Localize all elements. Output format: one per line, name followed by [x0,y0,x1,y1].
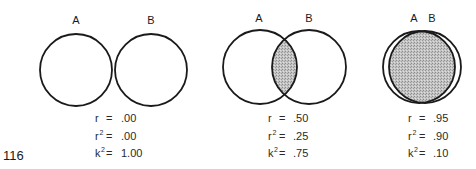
stat-r2-value: .90 [433,130,448,142]
stats-block: r = .50 r 2 = .25 k 2 = .75 [268,112,308,159]
stat-r2-eq: = [279,130,285,142]
circle-a-label: A [255,12,263,24]
stat-k2-eq: = [106,147,112,159]
stat-k2-eq: = [419,147,425,159]
stat-k2-eq: = [279,147,285,159]
stat-r2-value: .25 [293,130,308,142]
panel-moderate-correlation: A B r = .50 r 2 = .25 k 2 = .75 [223,12,346,159]
stat-k2-sup: 2 [274,146,278,153]
stat-r-value: .95 [433,112,448,124]
stat-r-eq: = [106,112,112,124]
stat-r-eq: = [419,112,425,124]
stat-r2-eq: = [106,130,112,142]
panel-no-correlation: A B r = .00 r 2 = .00 k 2 = 1.00 [40,14,187,159]
stat-r2-symbol: r [95,130,99,142]
stat-r-eq: = [279,112,285,124]
stat-r2-symbol: r [268,130,272,142]
stat-r-symbol: r [268,112,272,124]
circle-a [40,34,112,106]
stat-r2-sup: 2 [273,129,277,136]
circle-a-label: A [72,14,80,26]
stat-r-symbol: r [408,112,412,124]
venn-correlation-figure: A B r = .00 r 2 = .00 k 2 = 1.00 116 A B… [0,0,476,169]
stats-block: r = .00 r 2 = .00 k 2 = 1.00 [95,112,142,159]
stat-r2-sup: 2 [413,129,417,136]
stat-k2-value: 1.00 [121,147,142,159]
stat-r2-eq: = [419,130,425,142]
stat-k2-sup: 2 [414,146,418,153]
stat-k2-value: .75 [293,147,308,159]
circle-b-label: B [147,14,154,26]
stat-r2-sup: 2 [100,129,104,136]
stat-r2-value: .00 [121,130,136,142]
circle-a-label: A [410,12,418,24]
stats-block: r = .95 r 2 = .90 k 2 = .10 [408,112,448,159]
stat-r2-symbol: r [408,130,412,142]
circle-b-label: B [305,12,312,24]
stat-k2-value: .10 [433,147,448,159]
panel-high-correlation: A B r = .95 r 2 = .90 k 2 = .10 [383,12,461,159]
stat-k2-sup: 2 [101,146,105,153]
stat-r-symbol: r [95,112,99,124]
circle-b [115,34,187,106]
circle-b-label: B [428,12,435,24]
stat-r-value: .50 [293,112,308,124]
stat-r-value: .00 [121,112,136,124]
page-number: 116 [3,148,24,163]
